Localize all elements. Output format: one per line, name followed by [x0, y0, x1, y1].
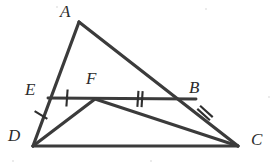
- segment-AC: [79, 22, 238, 146]
- vertex-label-A: A: [60, 3, 70, 20]
- tick-FB-stroke: [137, 91, 138, 107]
- tick-EF-stroke: [66, 90, 67, 107]
- tick-BC-stroke: [200, 106, 213, 117]
- scan-speck-0: [12, 160, 14, 162]
- scan-speck-2: [268, 96, 270, 98]
- vertex-label-B: B: [189, 79, 199, 96]
- tick-EF: [66, 90, 67, 107]
- vertex-label-C: C: [251, 131, 262, 148]
- geometry-canvas: [0, 0, 280, 168]
- scan-speck-3: [56, 6, 58, 8]
- scan-speck-1: [205, 8, 207, 10]
- segments-group: [33, 22, 238, 146]
- tick-FB-stroke: [142, 91, 143, 107]
- segment-EB: [48, 98, 196, 99]
- geometry-figure: A B C D E F: [0, 0, 280, 168]
- vertex-label-D: D: [8, 127, 20, 144]
- vertex-label-F: F: [86, 70, 96, 87]
- vertex-label-E: E: [25, 81, 35, 98]
- scan-speck-4: [150, 160, 152, 162]
- segment-FC: [95, 99, 238, 146]
